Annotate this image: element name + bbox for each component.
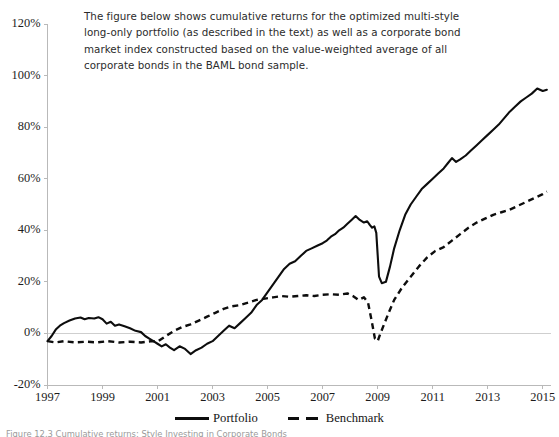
y-tick-label: 40% xyxy=(0,222,41,237)
x-tick-label: 2013 xyxy=(465,390,511,405)
x-tick-label: 2011 xyxy=(410,390,456,405)
data-series-group xyxy=(48,88,547,354)
axis-group xyxy=(48,24,552,385)
x-tick-label: 2003 xyxy=(190,390,236,405)
y-tick-label: 60% xyxy=(0,171,41,186)
figure-caption: Figure 12.3 Cumulative returns: Style In… xyxy=(6,429,426,437)
x-tick-label: 1997 xyxy=(25,390,71,405)
legend-label-benchmark: Benchmark xyxy=(326,411,384,426)
tick-marks-group xyxy=(44,24,543,389)
chart-legend: Portfolio Benchmark xyxy=(0,411,559,426)
legend-entry-portfolio[interactable]: Portfolio xyxy=(175,411,258,426)
legend-label-portfolio: Portfolio xyxy=(213,411,258,426)
x-tick-label: 2015 xyxy=(520,390,559,405)
series-line-benchmark xyxy=(48,192,547,343)
x-tick-label: 1999 xyxy=(80,390,126,405)
x-tick-label: 2001 xyxy=(135,390,181,405)
figure-container: The figure below shows cumulative return… xyxy=(0,0,559,437)
x-tick-label: 2009 xyxy=(355,390,401,405)
y-tick-label: 0% xyxy=(0,325,41,340)
y-tick-label: 20% xyxy=(0,274,41,289)
legend-entry-benchmark[interactable]: Benchmark xyxy=(288,411,384,426)
x-tick-label: 2007 xyxy=(300,390,346,405)
x-tick-label: 2005 xyxy=(245,390,291,405)
y-tick-label: 100% xyxy=(0,68,41,83)
legend-swatch-portfolio-solid-line xyxy=(175,417,209,420)
series-line-portfolio xyxy=(48,88,547,354)
legend-swatch-benchmark-dashed-line xyxy=(288,417,322,420)
y-tick-label: 80% xyxy=(0,119,41,134)
y-tick-label: 120% xyxy=(0,16,41,31)
chart-plot-area xyxy=(0,0,559,437)
